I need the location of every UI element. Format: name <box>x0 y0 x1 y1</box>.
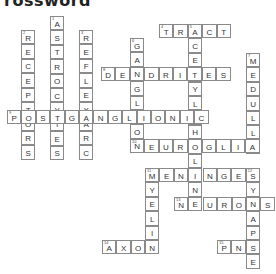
crossword-cell[interactable]: N <box>188 182 202 196</box>
crossword-cell[interactable]: N <box>130 67 144 81</box>
crossword-cell[interactable]: E <box>50 131 64 145</box>
crossword-cell[interactable]: S <box>50 146 64 160</box>
crossword-cell[interactable]: Y <box>188 82 202 96</box>
crossword-cell[interactable]: S <box>246 240 260 254</box>
crossword-cell[interactable]: S <box>21 145 35 159</box>
crossword-cell[interactable]: R <box>159 67 173 81</box>
crossword-cell[interactable]: S <box>260 197 274 211</box>
crossword-cell[interactable]: E <box>21 44 35 58</box>
crossword-cell[interactable]: N <box>93 110 107 124</box>
crossword-cell[interactable]: E <box>188 197 202 211</box>
crossword-cell[interactable]: O <box>50 74 64 88</box>
crossword-cell[interactable]: O <box>21 110 35 124</box>
crossword-cell[interactable]: S <box>50 30 64 44</box>
crossword-cell[interactable]: E <box>231 168 245 182</box>
crossword-cell[interactable]: T <box>50 110 64 124</box>
crossword-cell[interactable]: O <box>130 124 144 138</box>
crossword-cell[interactable]: C <box>202 24 216 38</box>
crossword-cell[interactable]: C <box>188 38 202 52</box>
crossword-cell[interactable]: C <box>50 88 64 102</box>
crossword-cell[interactable]: P <box>21 88 35 102</box>
crossword-cell[interactable]: S <box>216 67 230 81</box>
crossword-cell[interactable]: G <box>217 168 231 182</box>
crossword-cell[interactable]: C <box>79 145 93 159</box>
crossword-cell[interactable]: T4 <box>159 24 173 38</box>
crossword-cell[interactable]: F <box>79 59 93 73</box>
crossword-cell[interactable]: L <box>246 125 260 139</box>
crossword-cell[interactable]: M11 <box>145 168 159 182</box>
crossword-cell[interactable]: R <box>173 139 187 153</box>
crossword-cell[interactable]: S <box>36 110 50 124</box>
crossword-cell[interactable]: U <box>203 197 217 211</box>
crossword-cell[interactable]: D8 <box>101 67 115 81</box>
crossword-cell[interactable]: P15 <box>217 240 231 254</box>
crossword-cell[interactable]: I <box>231 139 245 153</box>
crossword-cell[interactable]: A <box>79 110 93 124</box>
crossword-cell[interactable]: E <box>79 88 93 102</box>
crossword-cell[interactable]: N10 <box>130 139 144 153</box>
crossword-cell[interactable]: T <box>50 45 64 59</box>
crossword-cell[interactable]: G6 <box>130 38 144 52</box>
crossword-cell[interactable]: R <box>217 197 231 211</box>
crossword-cell[interactable]: I <box>137 110 151 124</box>
crossword-cell[interactable]: G <box>108 110 122 124</box>
crossword-cell[interactable]: C <box>21 59 35 73</box>
crossword-cell[interactable]: A1 <box>50 16 64 30</box>
crossword-cell[interactable]: U <box>159 139 173 153</box>
crossword-cell[interactable]: O <box>232 197 246 211</box>
crossword-cell[interactable]: L <box>122 110 136 124</box>
crossword-cell[interactable]: D <box>144 67 158 81</box>
crossword-cell[interactable]: E <box>188 53 202 67</box>
crossword-cell[interactable]: X <box>116 240 130 254</box>
crossword-cell[interactable]: E <box>21 73 35 87</box>
crossword-cell[interactable]: T <box>187 67 201 81</box>
crossword-cell[interactable]: N <box>203 168 217 182</box>
crossword-cell[interactable]: A <box>130 52 144 66</box>
crossword-cell[interactable]: H <box>188 125 202 139</box>
crossword-cell[interactable]: G <box>130 81 144 95</box>
crossword-cell[interactable]: L <box>188 154 202 168</box>
crossword-cell[interactable]: R3 <box>79 30 93 44</box>
crossword-cell[interactable]: N <box>165 110 179 124</box>
crossword-cell[interactable]: O <box>188 139 202 153</box>
crossword-cell[interactable]: I <box>145 226 159 240</box>
crossword-cell[interactable]: A <box>245 139 259 153</box>
crossword-cell[interactable]: N <box>231 240 245 254</box>
crossword-cell[interactable]: O <box>131 240 145 254</box>
crossword-cell[interactable]: O <box>151 110 165 124</box>
crossword-cell[interactable]: A14 <box>102 240 116 254</box>
crossword-cell[interactable]: S12 <box>246 168 260 182</box>
crossword-cell[interactable]: A5 <box>188 24 202 38</box>
crossword-cell[interactable]: I <box>173 67 187 81</box>
crossword-cell[interactable]: L <box>79 73 93 87</box>
crossword-cell[interactable]: L <box>145 211 159 225</box>
crossword-cell[interactable]: M7 <box>246 53 260 67</box>
crossword-cell[interactable]: R <box>173 24 187 38</box>
crossword-cell[interactable]: E <box>246 67 260 81</box>
crossword-cell[interactable]: I <box>180 110 194 124</box>
crossword-cell[interactable]: N <box>145 240 159 254</box>
crossword-cell[interactable]: Y <box>145 182 159 196</box>
crossword-cell[interactable]: P9 <box>7 110 21 124</box>
crossword-cell[interactable]: N13 <box>174 197 188 211</box>
crossword-cell[interactable]: I <box>188 168 202 182</box>
crossword-cell[interactable]: D <box>246 82 260 96</box>
crossword-cell[interactable]: E <box>159 168 173 182</box>
crossword-cell[interactable]: R2 <box>21 30 35 44</box>
crossword-cell[interactable]: E <box>115 67 129 81</box>
crossword-cell[interactable]: L <box>246 111 260 125</box>
crossword-cell[interactable]: N <box>174 168 188 182</box>
crossword-cell[interactable]: R <box>50 59 64 73</box>
crossword-cell[interactable]: C <box>194 110 208 124</box>
crossword-cell[interactable]: E <box>79 44 93 58</box>
crossword-cell[interactable]: U <box>246 96 260 110</box>
crossword-cell[interactable]: E <box>145 197 159 211</box>
crossword-cell[interactable]: L <box>130 96 144 110</box>
crossword-cell[interactable]: G <box>65 110 79 124</box>
crossword-cell[interactable]: A <box>246 211 260 225</box>
crossword-cell[interactable]: G <box>202 139 216 153</box>
crossword-cell[interactable]: N <box>246 197 260 211</box>
crossword-cell[interactable]: T <box>217 24 231 38</box>
crossword-cell[interactable]: E <box>144 139 158 153</box>
crossword-cell[interactable]: P <box>246 226 260 240</box>
